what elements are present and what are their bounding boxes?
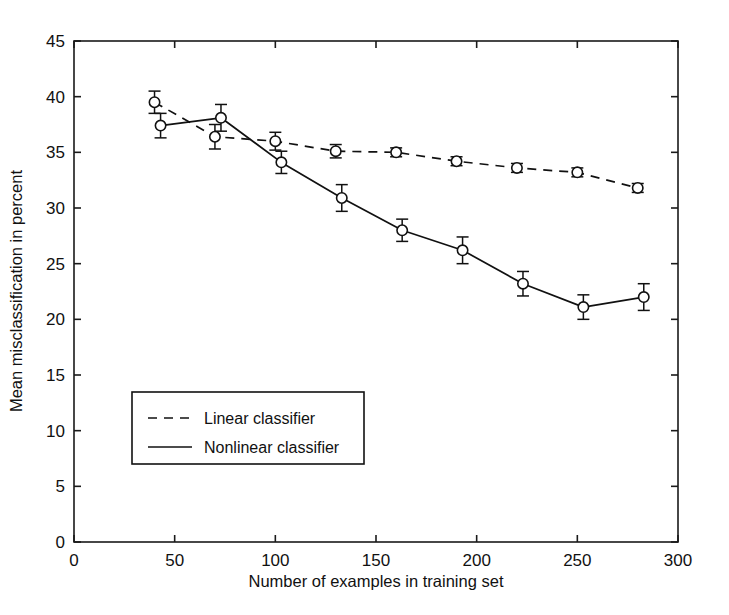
y-tick-label: 20 bbox=[46, 310, 65, 329]
y-tick-label: 40 bbox=[46, 88, 65, 107]
y-tick-label: 10 bbox=[46, 422, 65, 441]
x-tick-label: 50 bbox=[165, 551, 184, 570]
data-point bbox=[571, 167, 583, 177]
chart-legend: Linear classifierNonlinear classifier bbox=[132, 392, 364, 464]
y-tick-label: 25 bbox=[46, 255, 65, 274]
x-tick-label: 100 bbox=[261, 551, 289, 570]
line-chart: 051015202530354045 050100150200250300 Nu… bbox=[0, 0, 729, 615]
x-tick-label: 0 bbox=[69, 551, 78, 570]
y-tick-label: 45 bbox=[46, 32, 65, 51]
y-tick-label: 35 bbox=[46, 143, 65, 162]
x-tick-label: 300 bbox=[664, 551, 692, 570]
y-tick-label: 15 bbox=[46, 366, 65, 385]
x-tick-label: 150 bbox=[362, 551, 390, 570]
x-axis-title: Number of examples in training set bbox=[249, 572, 504, 590]
chart-background bbox=[0, 0, 729, 615]
data-point bbox=[632, 183, 644, 193]
y-tick-label: 30 bbox=[46, 199, 65, 218]
y-tick-label: 0 bbox=[56, 533, 65, 552]
legend-label-1: Linear classifier bbox=[204, 410, 316, 427]
y-axis-title: Mean misclassification in percent bbox=[7, 170, 25, 413]
legend-label-2: Nonlinear classifier bbox=[204, 439, 340, 456]
figure-container: 051015202530354045 050100150200250300 Nu… bbox=[0, 0, 729, 615]
data-point bbox=[451, 156, 463, 166]
data-point bbox=[511, 163, 523, 173]
x-tick-label: 250 bbox=[563, 551, 591, 570]
y-tick-label: 5 bbox=[56, 477, 65, 496]
x-tick-label: 200 bbox=[462, 551, 490, 570]
data-point bbox=[390, 147, 402, 157]
